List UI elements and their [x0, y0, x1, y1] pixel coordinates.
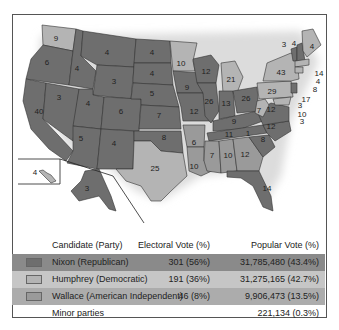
popular-vote: 9,906,473 (13.5%) [245, 291, 319, 301]
svg-text:12: 12 [267, 122, 276, 131]
state-CT [295, 67, 303, 73]
svg-text:12: 12 [267, 105, 276, 114]
svg-text:14: 14 [263, 184, 272, 193]
svg-text:7: 7 [157, 111, 162, 120]
svg-text:3: 3 [57, 93, 62, 102]
svg-text:7: 7 [257, 106, 262, 115]
svg-text:3: 3 [112, 77, 117, 86]
svg-text:8: 8 [313, 85, 318, 94]
svg-text:40: 40 [35, 107, 44, 116]
svg-text:6: 6 [192, 138, 197, 147]
svg-text:4: 4 [86, 99, 91, 108]
svg-text:12: 12 [190, 107, 199, 116]
state-OR [26, 45, 73, 85]
legend-swatch-democratic [26, 275, 42, 284]
popular-vote: 31,275,165 (42.7%) [240, 274, 319, 284]
svg-text:43: 43 [277, 68, 286, 77]
svg-text:10: 10 [190, 162, 199, 171]
svg-text:3: 3 [300, 117, 305, 126]
svg-text:9: 9 [185, 83, 190, 92]
table-row-humphrey: Humphrey (Democratic) 191 (36%) 31,275,1… [12, 271, 325, 288]
svg-text:25: 25 [151, 164, 160, 173]
svg-text:10: 10 [177, 59, 186, 68]
popular-vote: 31,785,480 (43.4%) [240, 257, 319, 267]
svg-text:9: 9 [54, 34, 59, 43]
popular-vote: 221,134 (0.3%) [257, 308, 319, 318]
candidate-name: Humphrey (Democratic) [52, 274, 148, 284]
legend-swatch-american-independent [26, 292, 42, 301]
candidate-name: Minor parties [52, 308, 104, 318]
svg-text:4: 4 [33, 168, 38, 177]
svg-text:6: 6 [119, 107, 124, 116]
table-row-wallace: Wallace (American Independent) 46 (8%) 9… [12, 288, 325, 305]
svg-text:29: 29 [268, 87, 277, 96]
state-AK [71, 169, 116, 211]
header-popular: Popular Vote (%) [251, 240, 319, 250]
svg-text:3: 3 [85, 184, 90, 193]
state-HI [39, 170, 56, 183]
svg-text:5: 5 [150, 89, 155, 98]
svg-text:12: 12 [241, 150, 250, 159]
svg-text:3: 3 [282, 40, 287, 49]
svg-text:8: 8 [162, 133, 167, 142]
svg-text:9: 9 [232, 117, 237, 126]
svg-text:7: 7 [210, 151, 215, 160]
svg-text:3: 3 [298, 101, 303, 110]
svg-text:11: 11 [225, 130, 234, 139]
svg-text:21: 21 [227, 75, 236, 84]
state-NJ [291, 83, 297, 93]
svg-text:26: 26 [205, 97, 214, 106]
svg-text:12: 12 [202, 67, 211, 76]
svg-text:4: 4 [112, 139, 117, 148]
state-NM [97, 129, 134, 169]
svg-text:4: 4 [310, 42, 315, 51]
legend-swatch-republican [26, 258, 42, 267]
electoral-vote: 46 (8%) [178, 291, 210, 301]
svg-text:26: 26 [242, 94, 251, 103]
electoral-vote: 191 (36%) [168, 274, 210, 284]
svg-text:5: 5 [79, 134, 84, 143]
svg-text:17: 17 [302, 95, 311, 104]
table-row-nixon: Nixon (Republican) 301 (56%) 31,785,480 … [12, 254, 325, 271]
electoral-map: 9640 344 346 54 445 7825 10912 610 12262… [13, 15, 328, 240]
svg-text:4: 4 [105, 48, 110, 57]
svg-text:1: 1 [246, 129, 251, 138]
electoral-vote: 301 (56%) [168, 257, 210, 267]
svg-text:13: 13 [222, 99, 231, 108]
header-candidate: Candidate (Party) [52, 240, 123, 250]
candidate-name: Nixon (Republican) [52, 257, 129, 267]
svg-text:4: 4 [292, 39, 297, 48]
svg-text:6: 6 [45, 58, 50, 67]
header-electoral: Electoral Vote (%) [138, 240, 210, 250]
table-header: Candidate (Party) Electoral Vote (%) Pop… [12, 237, 325, 254]
svg-text:4: 4 [75, 64, 80, 73]
svg-text:4: 4 [150, 48, 155, 57]
svg-text:8: 8 [261, 135, 266, 144]
table-row-minor: Minor parties 221,134 (0.3%) [12, 305, 325, 322]
candidate-name: Wallace (American Independent) [52, 291, 183, 301]
svg-text:10: 10 [224, 151, 233, 160]
svg-text:4: 4 [150, 69, 155, 78]
